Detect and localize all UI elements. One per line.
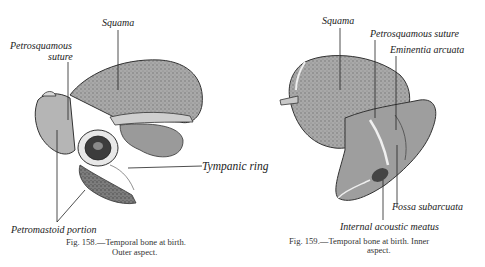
caption-fig158-line1: Fig. 158.—Temporal bone at birth. <box>66 238 186 247</box>
anatomy-figure-plate: Squama Petrosquamous suture Tympanic rin… <box>0 0 485 267</box>
label-fossa-subarcuata: Fossa subarcuata <box>392 202 463 212</box>
label-petrosquamous-158-line1: Petrosquamous <box>10 41 72 51</box>
label-internal-acoustic-meatus: Internal acoustic meatus <box>340 222 439 232</box>
label-petrosquamous-159: Petrosquamous suture <box>370 29 459 39</box>
caption-fig158-line2: Outer aspect. <box>112 248 157 257</box>
label-eminentia-arcuata: Eminentia arcuata <box>390 45 464 55</box>
label-squama-159: Squama <box>322 16 354 26</box>
fig159-bone <box>280 56 436 201</box>
label-tympanic-ring: Tympanic ring <box>202 161 269 171</box>
fig158-bone <box>35 60 202 204</box>
label-petromastoid-portion: Petromastoid portion <box>11 225 96 235</box>
label-petrosquamous-158-line2: suture <box>48 52 73 62</box>
caption-fig159-line2: aspect. <box>367 246 391 255</box>
label-squama-158: Squama <box>102 18 134 28</box>
caption-fig159-line1: Fig. 159.—Temporal bone at birth. Inner <box>289 237 429 246</box>
